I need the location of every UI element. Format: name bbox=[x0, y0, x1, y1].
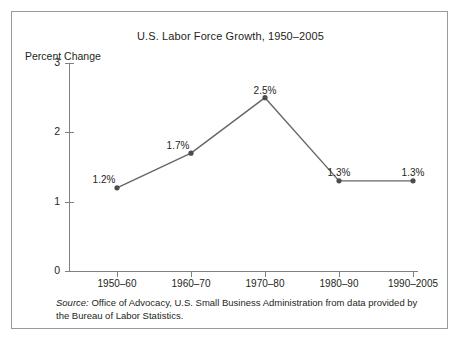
data-point-1960–70 bbox=[188, 151, 193, 156]
point-label-1960-70: 1.7% bbox=[148, 140, 208, 151]
data-point-1990–2005 bbox=[410, 178, 415, 183]
chart-frame: U.S. Labor Force Growth, 1950–2005 Perce… bbox=[11, 11, 448, 329]
source-label: Source: bbox=[56, 297, 89, 308]
source-note: Source: Office of Advocacy, U.S. Small B… bbox=[56, 296, 422, 322]
point-label-1970-80: 2.5% bbox=[235, 85, 295, 96]
point-label-1990-2005: 1.3% bbox=[383, 167, 443, 178]
data-point-1980–90 bbox=[336, 178, 341, 183]
point-label-1950-60: 1.2% bbox=[74, 174, 134, 185]
source-body: Office of Advocacy, U.S. Small Business … bbox=[56, 297, 417, 321]
plot-area: 3 2 1 0 1950–60 1960–70 1970–80 1980–90 … bbox=[12, 12, 449, 330]
point-label-1980-90: 1.3% bbox=[309, 167, 369, 178]
data-point-1950–60 bbox=[114, 185, 119, 190]
